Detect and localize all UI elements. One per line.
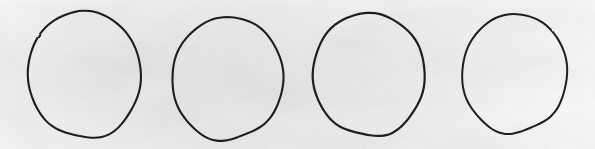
circle-four-stroke: [460, 12, 569, 136]
circle-three-stroke: [312, 12, 426, 137]
ink-drawing-layer: [0, 0, 595, 149]
scanned-page: [0, 0, 595, 149]
circle-two-stroke: [169, 14, 286, 144]
circle-one-stroke: [26, 9, 143, 140]
